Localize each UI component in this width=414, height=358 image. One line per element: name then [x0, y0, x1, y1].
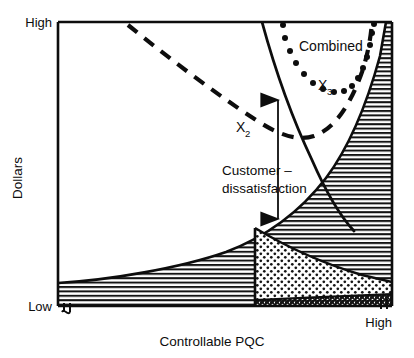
y-axis-low-label: Low [28, 299, 52, 314]
y-axis-high-label: High [25, 15, 52, 30]
combined-label: Combined [299, 38, 363, 54]
x-axis-high-label: High [365, 315, 392, 330]
chart-figure: High Low Dollars High Controllable PQC C… [0, 0, 414, 358]
customer-dissatisfaction-line1: Customer – [222, 163, 292, 178]
y-axis-title: Dollars [10, 157, 25, 199]
x-axis-title: Controllable PQC [159, 334, 264, 349]
customer-dissatisfaction-line2: dissatisfaction [222, 181, 307, 196]
x3-label-subscript: 3 [327, 86, 332, 97]
chart-svg: High Low Dollars High Controllable PQC C… [0, 0, 414, 358]
x2-label-subscript: 2 [245, 128, 250, 139]
